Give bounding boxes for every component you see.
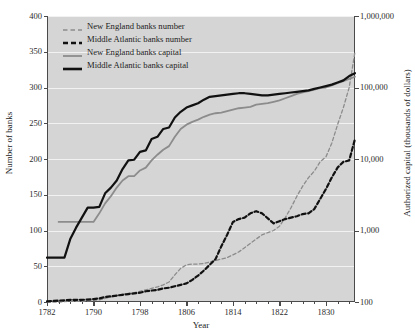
legend-label: Middle Atlantic banks capital (87, 60, 188, 70)
x-tick-mark (47, 302, 48, 306)
legend-label: New England banks number (87, 21, 185, 31)
x-tick-mark (314, 302, 315, 304)
legend-item-2[interactable]: New England banks capital (63, 45, 192, 58)
chart-legend: New England banks numberMiddle Atlantic … (63, 19, 192, 72)
y-tick-0: 0 (14, 297, 42, 307)
y2-tick-100: 100 (360, 297, 373, 307)
y2-tick-1000: 1,000 (360, 225, 379, 235)
legend-swatch-icon (63, 21, 82, 31)
y-tick-100: 100 (14, 225, 42, 235)
series-middle-atlantic-banks-capital (47, 73, 355, 257)
legend-label: Middle Atlantic banks number (87, 34, 192, 44)
chart-figure: Number of banks Authorized capital (thou… (0, 0, 415, 336)
x-tick-mark (198, 302, 199, 304)
y-tick-mark (44, 123, 48, 124)
y2-tick-10000: 10,000 (360, 154, 383, 164)
y-tick-mark (44, 195, 48, 196)
x-tick-mark (70, 302, 71, 304)
series-middle-atlantic-banks-number (47, 139, 355, 301)
legend-label: New England banks capital (87, 47, 181, 57)
y-tick-mark (44, 88, 48, 89)
x-tick-1790: 1790 (77, 307, 109, 317)
y-tick-mark (44, 159, 48, 160)
x-tick-mark (245, 302, 246, 304)
legend-swatch-icon (63, 47, 82, 57)
x-tick-1814: 1814 (217, 307, 249, 317)
legend-item-0[interactable]: New England banks number (63, 19, 192, 32)
y-tick-300: 300 (14, 82, 42, 92)
legend-swatch-icon (63, 34, 82, 44)
y-tick-250: 250 (14, 118, 42, 128)
x-tick-mark (140, 302, 141, 306)
x-tick-1830: 1830 (310, 307, 342, 317)
y-tick-350: 350 (14, 46, 42, 56)
x-tick-mark (233, 302, 234, 306)
x-tick-1782: 1782 (31, 307, 63, 317)
y2-tick-100000: 100,000 (360, 82, 388, 92)
x-tick-mark (82, 302, 83, 304)
secondary-y-axis-label: Authorized capital (thousands of dollars… (400, 0, 414, 286)
y-tick-mark (44, 266, 48, 267)
y2-tick-mark (355, 159, 359, 160)
x-tick-mark (59, 302, 60, 304)
x-tick-mark (152, 302, 153, 304)
y-tick-mark (44, 52, 48, 53)
legend-item-3[interactable]: Middle Atlantic banks capital (63, 59, 192, 72)
y2-tick-mark (355, 16, 359, 17)
x-tick-mark (268, 302, 269, 304)
x-tick-mark (163, 302, 164, 304)
x-tick-1822: 1822 (263, 307, 295, 317)
y-tick-200: 200 (14, 154, 42, 164)
x-tick-mark (128, 302, 129, 304)
x-tick-mark (349, 302, 350, 304)
x-tick-mark (117, 302, 118, 304)
y2-tick-mark (355, 302, 359, 303)
x-tick-mark (291, 302, 292, 304)
y-tick-50: 50 (14, 261, 42, 271)
y-axis-label: Number of banks (2, 0, 16, 286)
y2-tick-1000000: 1,000,000 (360, 11, 394, 21)
x-tick-mark (93, 302, 94, 306)
y-tick-400: 400 (14, 11, 42, 21)
y2-tick-mark (355, 231, 359, 232)
x-axis-label: Year (47, 320, 355, 330)
y-tick-mark (44, 16, 48, 17)
legend-swatch-icon (63, 60, 82, 70)
x-tick-mark (210, 302, 211, 304)
legend-item-1[interactable]: Middle Atlantic banks number (63, 32, 192, 45)
x-tick-mark (303, 302, 304, 304)
x-tick-mark (326, 302, 327, 306)
y2-tick-mark (355, 88, 359, 89)
x-tick-1806: 1806 (170, 307, 202, 317)
x-tick-mark (221, 302, 222, 304)
x-tick-mark (105, 302, 106, 304)
x-tick-mark (175, 302, 176, 304)
x-tick-1798: 1798 (124, 307, 156, 317)
x-tick-mark (186, 302, 187, 306)
x-tick-mark (256, 302, 257, 304)
y-tick-mark (44, 231, 48, 232)
x-tick-mark (279, 302, 280, 306)
y-tick-150: 150 (14, 189, 42, 199)
x-tick-mark (338, 302, 339, 304)
